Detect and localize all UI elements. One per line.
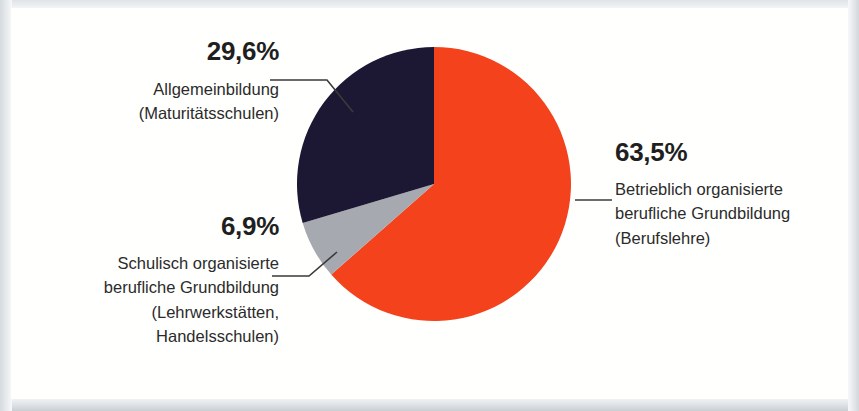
description-line: (Lehrwerkstätten, — [33, 300, 279, 324]
percent-allgemeinbildung: 29,6% — [51, 38, 279, 64]
description-betrieblich: Betrieblich organisierte berufliche Grun… — [615, 177, 855, 250]
chart-canvas: 29,6% Allgemeinbildung (Maturitätsschule… — [11, 8, 848, 399]
description-line: Handelsschulen) — [33, 324, 279, 348]
description-line: (Maturitätsschulen) — [51, 101, 279, 125]
description-schulisch: Schulisch organisierte berufliche Grundb… — [33, 251, 279, 349]
leader-line-schulisch — [271, 250, 339, 284]
callout-allgemeinbildung: 29,6% Allgemeinbildung (Maturitätsschule… — [51, 38, 279, 126]
chart-screenshot: 29,6% Allgemeinbildung (Maturitätsschule… — [0, 0, 859, 411]
leader-line-betrieblich — [574, 194, 614, 206]
description-line: berufliche Grundbildung — [615, 201, 855, 225]
description-line: Allgemeinbildung — [51, 77, 279, 101]
description-line: berufliche Grundbildung — [33, 275, 279, 299]
description-line: Schulisch organisierte — [33, 251, 279, 275]
percent-betrieblich: 63,5% — [615, 139, 855, 165]
callout-schulisch: 6,9% Schulisch organisierte berufliche G… — [33, 213, 279, 349]
percent-schulisch: 6,9% — [33, 213, 279, 239]
description-allgemeinbildung: Allgemeinbildung (Maturitätsschulen) — [51, 77, 279, 126]
scan-frame-bottom — [0, 399, 859, 411]
callout-betrieblich: 63,5% Betrieblich organisierte beruflich… — [615, 139, 855, 250]
description-line: Betrieblich organisierte — [615, 177, 855, 201]
description-line: (Berufslehre) — [615, 226, 855, 250]
leader-line-allgemeinbildung — [269, 70, 355, 114]
